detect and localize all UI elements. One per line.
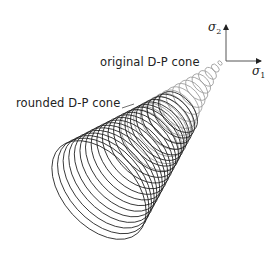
rounded-cone-label: rounded D-P cone [16,96,120,110]
rounded-dp-cone [33,84,205,257]
cone-cross-section [160,81,206,128]
cone-cross-section [46,119,169,245]
cone-cross-section [203,65,219,81]
sigma2-label: σ2 [208,20,221,36]
rounded-cone-leader [122,104,134,108]
original-cone-label: original D-P cone [100,55,200,69]
sigma1-label: σ1 [252,64,265,80]
cone-cross-section [58,115,173,233]
stress-axes [226,25,261,61]
diagram-canvas [0,0,277,261]
cone-cross-section [52,117,171,239]
cone-cross-section [64,113,175,227]
cone-cross-section [217,60,223,66]
